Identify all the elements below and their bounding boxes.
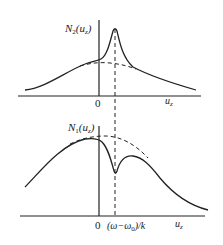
bottom-xlabel: uz bbox=[175, 218, 183, 231]
top-panel: N2(uz) 0 uz bbox=[18, 20, 201, 109]
top-origin-label: 0 bbox=[95, 97, 101, 109]
top-dashed-distribution bbox=[80, 63, 136, 69]
bottom-panel: N1(uz) 0 (ω−ω0)/k uz bbox=[20, 121, 208, 233]
bottom-solid-curve-dip bbox=[25, 138, 208, 210]
resonance-velocity-label: (ω−ω0)/k bbox=[107, 220, 146, 233]
bottom-ylabel: N1(uz) bbox=[67, 121, 95, 135]
top-ylabel: N2(uz) bbox=[64, 22, 92, 36]
bottom-origin-label: 0 bbox=[95, 219, 101, 231]
top-xlabel: uz bbox=[165, 95, 173, 108]
top-solid-curve-peak bbox=[25, 29, 196, 90]
diagram-canvas: N2(uz) 0 uz N1(uz) 0 (ω−ω0)/k uz bbox=[0, 0, 223, 245]
